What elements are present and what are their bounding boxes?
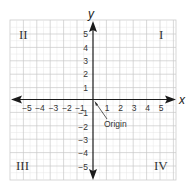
y-tick: 5 bbox=[83, 29, 88, 39]
y-axis-label: y bbox=[87, 7, 95, 21]
x-tick: −2 bbox=[62, 103, 72, 113]
y-tick: 4 bbox=[83, 43, 88, 53]
quadrant-label-i: I bbox=[159, 27, 163, 42]
quadrant-label-iv: IV bbox=[154, 158, 168, 173]
origin-label: Origin bbox=[104, 119, 127, 129]
x-axis-label: x bbox=[178, 93, 186, 107]
y-tick: 3 bbox=[83, 56, 88, 66]
x-tick: −3 bbox=[49, 103, 59, 113]
x-tick: 4 bbox=[145, 103, 150, 113]
y-tick: −4 bbox=[78, 148, 88, 158]
coordinate-plane: y x −5 −4 −3 −2 −1 1 2 3 4 5 5 4 3 2 1 −… bbox=[0, 0, 193, 188]
quadrant-label-iii: III bbox=[16, 158, 29, 173]
x-tick: 1 bbox=[105, 103, 110, 113]
y-tick: −5 bbox=[78, 162, 88, 172]
y-tick: 1 bbox=[83, 83, 88, 93]
x-tick: 5 bbox=[159, 103, 164, 113]
x-tick: 2 bbox=[118, 103, 123, 113]
quadrant-label-ii: II bbox=[19, 27, 28, 42]
y-tick: −3 bbox=[78, 135, 88, 145]
y-tick: −1 bbox=[78, 108, 88, 118]
y-tick: 2 bbox=[83, 69, 88, 79]
y-tick: −2 bbox=[78, 122, 88, 132]
x-tick: −5 bbox=[22, 103, 32, 113]
x-tick: 3 bbox=[132, 103, 137, 113]
x-tick: −4 bbox=[35, 103, 45, 113]
